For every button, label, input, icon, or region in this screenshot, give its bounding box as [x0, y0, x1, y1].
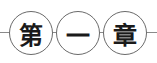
chapter-char-circle: 章: [103, 11, 147, 55]
chapter-char-circle: 第: [9, 11, 53, 55]
chapter-char: 第: [19, 16, 43, 51]
chapter-char: 章: [113, 16, 137, 51]
chapter-char: 一: [66, 16, 90, 51]
chapter-char-circle: 一: [56, 11, 100, 55]
